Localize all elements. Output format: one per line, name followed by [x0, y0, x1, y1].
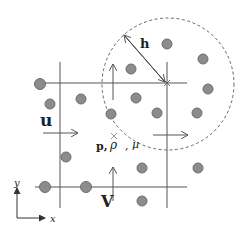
particles	[35, 39, 214, 206]
label-p: p,	[96, 140, 108, 153]
particle	[106, 109, 116, 119]
particle	[193, 163, 203, 173]
label-h: h	[140, 36, 150, 51]
label-comma: ,	[125, 139, 129, 152]
label-mu: μ	[132, 138, 139, 151]
particle	[35, 79, 46, 90]
particle	[45, 99, 55, 109]
particle	[198, 54, 208, 64]
particle	[162, 39, 172, 49]
particle	[131, 93, 141, 103]
particle	[61, 152, 71, 162]
particle	[137, 163, 147, 173]
label-axis-y: y	[13, 177, 20, 188]
particle	[40, 182, 51, 193]
particle	[152, 108, 162, 118]
label-v: V	[100, 192, 114, 211]
particle	[81, 182, 92, 193]
particle	[192, 108, 202, 118]
label-axis-x: x	[50, 213, 56, 224]
particle	[203, 84, 213, 94]
sph-grid-diagram: h u V p, ρ , μ y x	[0, 0, 248, 235]
particle	[76, 94, 86, 104]
particle	[137, 196, 147, 206]
label-rho: ρ	[109, 138, 117, 152]
particle	[126, 64, 136, 74]
label-u: u	[40, 110, 52, 130]
